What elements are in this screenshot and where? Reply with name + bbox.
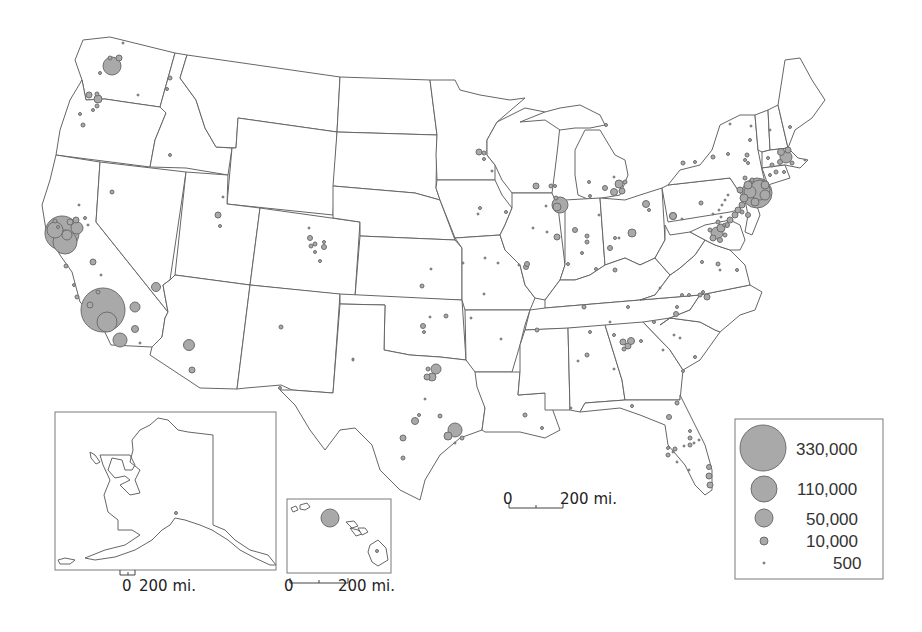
bubble [672,451,674,453]
bubble [585,353,589,357]
bubble [130,302,140,312]
bubble [675,401,679,405]
bubble [760,190,770,200]
bubble [113,333,127,347]
bubble [589,195,592,198]
bubble [95,92,99,96]
bubble [321,509,339,527]
bubble [611,189,618,196]
bubble [184,340,195,351]
bubble [681,294,684,297]
bubble [723,224,726,227]
legend-label: 10,000 [806,532,858,551]
alaska-scale-zero: 0 [122,577,132,595]
bubble [139,342,141,344]
bubble [96,290,100,294]
bubble [479,207,482,210]
bubble [567,263,570,266]
bubble [745,153,749,157]
bubble [535,328,539,332]
bubble [73,284,76,287]
legend: 330,000 110,000 50,000 10,000 500 [735,419,883,579]
bubble [116,55,122,61]
bubble [67,219,73,225]
bubble [523,413,527,417]
bubble [518,264,520,266]
bubble [699,201,703,205]
bubble [681,161,685,165]
bubble [322,245,327,250]
bubble [737,187,743,193]
bubble [614,237,617,240]
bubble [719,269,721,271]
bubble [97,312,117,332]
bubble [589,331,592,334]
state-wyoming [227,118,337,215]
bubble [688,294,691,297]
bubble [545,205,547,207]
bubble [78,204,80,206]
bubble [751,198,759,206]
bubble [86,92,92,98]
bubble [708,228,712,232]
state-ohio [600,188,665,265]
state-vermont [755,110,770,152]
legend-label: 330,000 [796,440,857,459]
legend-symbol-50000 [755,509,773,527]
bubble [222,196,224,198]
bubble [108,56,112,60]
bubble [659,287,661,289]
bubble [64,264,68,268]
bubble [679,337,681,339]
bubble [613,176,615,178]
bubble [688,436,692,440]
bubble [132,326,139,333]
alaska-inset: 0 200 mi. [55,412,276,595]
bubble [400,435,406,441]
bubble [553,203,561,211]
bubble [166,88,169,91]
bubble [588,181,591,184]
bubble [804,159,806,161]
bubble [554,185,557,188]
bubble [721,204,723,206]
bubble [603,186,608,191]
bubble [424,374,430,380]
bubble [546,231,548,233]
bubble [613,268,617,272]
bubble [744,181,752,189]
bubble [73,217,79,223]
bubble [747,162,750,165]
bubble [609,321,611,323]
bubble [525,262,530,267]
bubble [426,367,430,371]
bubble [421,324,426,329]
bubble [666,453,670,457]
bubble [168,76,172,80]
bubble [706,473,712,479]
bubble [613,334,616,337]
bubble [581,252,584,255]
bubble [430,268,432,270]
bubble [585,234,589,238]
main-scale-distance: 200 mi. [560,490,617,508]
bubble [774,170,778,174]
bubble [87,302,93,308]
bubble [541,427,544,430]
bubble [423,331,426,334]
bubble [716,220,720,224]
bubble [554,234,560,240]
bubble [622,347,626,351]
bubble [698,439,700,441]
bubble [81,123,85,127]
legend-symbol-10000 [760,537,768,545]
bubble [746,213,751,218]
bubble [424,398,426,400]
bubble [608,246,613,251]
bubble [682,370,685,373]
bubble [491,170,493,172]
bubble [477,213,479,215]
bubble [476,149,482,155]
bubble [718,238,723,243]
bubble [549,184,553,188]
